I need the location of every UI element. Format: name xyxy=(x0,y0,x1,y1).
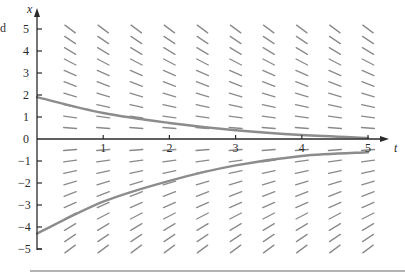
slope-segment xyxy=(263,224,274,231)
slope-segment xyxy=(297,25,307,33)
slope-segment xyxy=(197,202,209,207)
slope-segment xyxy=(97,160,110,162)
slope-segment xyxy=(130,202,142,207)
slope-segment xyxy=(296,82,308,87)
slope-segment xyxy=(329,181,341,185)
slope-segment xyxy=(197,245,207,253)
slope-segment xyxy=(296,93,308,97)
slope-segment xyxy=(362,48,373,55)
slope-segment xyxy=(130,181,142,185)
slope-segment xyxy=(197,25,207,33)
slope-segment xyxy=(64,181,76,185)
slope-segment xyxy=(362,181,374,185)
slope-segment xyxy=(64,202,76,207)
slope-segment xyxy=(131,234,142,241)
slope-segment xyxy=(363,245,373,253)
slope-segment xyxy=(362,224,373,231)
slope-segment xyxy=(229,181,241,185)
slope-segment xyxy=(97,59,109,65)
x-tick-label: 1 xyxy=(100,141,106,155)
slope-segment xyxy=(329,93,341,97)
slope-segment xyxy=(64,59,76,65)
slope-segment xyxy=(131,48,142,55)
slope-segment xyxy=(296,48,307,55)
slope-segment xyxy=(163,192,175,197)
slope-segment xyxy=(196,105,209,108)
slope-segment xyxy=(229,105,242,108)
slope-segment xyxy=(230,234,241,241)
slope-segment xyxy=(64,171,77,174)
slope-segment xyxy=(197,234,208,241)
slope-segment xyxy=(197,213,209,219)
slope-segment xyxy=(131,25,141,33)
slope-segment xyxy=(163,128,176,129)
y-tick-label: 3 xyxy=(23,66,29,80)
slope-segment xyxy=(229,116,242,118)
slope-segment xyxy=(97,192,109,197)
slope-segment xyxy=(230,82,242,87)
slope-segment xyxy=(65,224,76,231)
slope-segment xyxy=(131,213,143,219)
slope-segment xyxy=(130,105,143,108)
slope-segment xyxy=(230,224,241,231)
slope-segment xyxy=(329,192,341,197)
slope-segment xyxy=(98,245,108,253)
slope-segment xyxy=(64,93,76,97)
slope-segment xyxy=(297,245,307,253)
x-tick-label: 3 xyxy=(233,141,239,155)
slope-segment xyxy=(263,25,273,33)
solution-lower-curve xyxy=(37,152,368,233)
solution-curves xyxy=(37,97,368,233)
slope-segment xyxy=(263,234,274,241)
slope-segment xyxy=(262,128,275,129)
slope-segment xyxy=(329,105,342,108)
slope-segment xyxy=(164,25,174,33)
slope-segment xyxy=(163,171,176,174)
slope-segment xyxy=(65,36,76,43)
x-axis-arrow-icon xyxy=(380,136,389,142)
slope-segment xyxy=(65,25,75,33)
slope-segment xyxy=(196,181,208,185)
slope-segment xyxy=(131,36,142,43)
slope-segment xyxy=(296,36,307,43)
slope-segment xyxy=(295,116,308,118)
slope-segment xyxy=(130,70,142,75)
slope-segment xyxy=(130,82,142,87)
y-tick-label: −1 xyxy=(18,154,31,168)
slope-segment xyxy=(197,36,208,43)
slope-segment xyxy=(97,128,110,129)
slope-segment xyxy=(229,171,242,174)
slope-segment xyxy=(230,213,242,219)
slope-segment xyxy=(330,25,340,33)
slope-segment xyxy=(362,192,374,197)
slope-segment xyxy=(164,59,176,65)
slope-segment xyxy=(196,150,209,151)
y-tick-label: −3 xyxy=(18,198,31,212)
slope-segment xyxy=(362,160,375,162)
slope-segment xyxy=(328,150,341,151)
slope-segment xyxy=(263,59,275,65)
slope-segment xyxy=(363,25,373,33)
slope-segment xyxy=(130,150,143,151)
x-tick-label: 2 xyxy=(166,141,172,155)
slope-segment xyxy=(164,234,175,241)
slope-segment xyxy=(164,213,176,219)
slope-segment xyxy=(329,171,342,174)
slope-segment xyxy=(295,105,308,108)
slope-segment xyxy=(130,93,142,97)
y-tick-label: −5 xyxy=(18,242,31,256)
slope-segment xyxy=(263,192,275,197)
slope-segment xyxy=(163,160,176,162)
y-tick-label: 1 xyxy=(23,110,29,124)
slope-segment xyxy=(65,48,76,55)
x-axis-label: t xyxy=(394,141,398,155)
slope-segment xyxy=(230,59,242,65)
slope-segment xyxy=(98,36,109,43)
slope-segment xyxy=(296,213,308,219)
slope-segment xyxy=(97,213,109,219)
slope-segment xyxy=(197,224,208,231)
slope-segment xyxy=(97,171,110,174)
slope-segment xyxy=(296,234,307,241)
y-tick-label: 4 xyxy=(23,44,29,58)
slope-segment xyxy=(363,234,374,241)
